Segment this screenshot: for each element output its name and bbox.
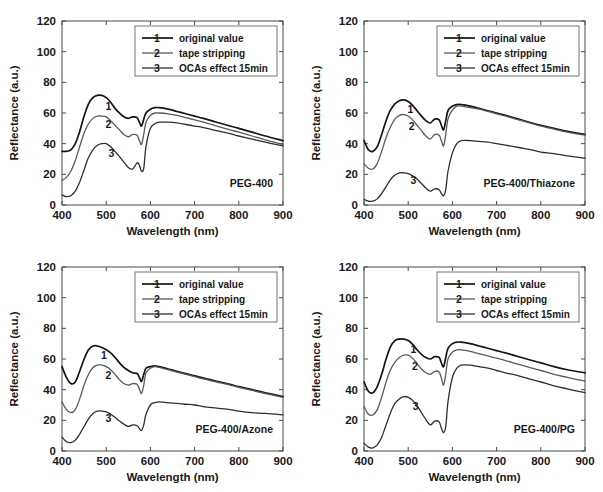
curve-number-2: 2: [409, 120, 415, 132]
legend-label-2: tape stripping: [481, 294, 547, 305]
y-tick-label: 80: [345, 322, 358, 334]
x-axis-title: Wavelength (nm): [126, 471, 218, 483]
legend-label-1: original value: [481, 279, 546, 290]
legend-label-3: OCAs effect 15min: [481, 63, 570, 74]
y-tick-label: 0: [352, 445, 358, 457]
x-axis-title: Wavelength (nm): [126, 225, 218, 237]
curve-number-3: 3: [109, 147, 115, 159]
curve-number-3: 3: [105, 412, 111, 424]
curve-number-2: 2: [412, 360, 418, 372]
y-tick-label: 40: [345, 384, 358, 396]
x-tick-label: 600: [141, 455, 160, 467]
chart-panel-bottom-right: 400500600700800900020406080100120Wavelen…: [302, 246, 603, 492]
legend-label-3: OCAs effect 15min: [481, 309, 570, 320]
y-tick-label: 100: [339, 292, 358, 304]
y-tick-label: 100: [37, 292, 56, 304]
legend-marker-1: 1: [154, 278, 160, 290]
y-tick-label: 60: [43, 107, 56, 119]
chart-panel-bottom-left: 400500600700800900020406080100120Wavelen…: [0, 246, 301, 492]
legend-label-1: original value: [179, 33, 244, 44]
x-tick-label: 500: [399, 209, 418, 221]
y-tick-label: 60: [345, 353, 358, 365]
chart-panel-top-right: 400500600700800900020406080100120Wavelen…: [302, 0, 603, 246]
x-tick-label: 700: [487, 209, 506, 221]
y-tick-label: 40: [43, 138, 56, 150]
y-axis-title: Reflectance (a.u.): [310, 65, 322, 160]
legend-label-2: tape stripping: [179, 48, 245, 59]
curve-number-1: 1: [101, 349, 107, 361]
curve-number-3: 3: [413, 400, 419, 412]
curve-number-1: 1: [407, 103, 413, 115]
panel-title: PEG-400/Thiazone: [483, 177, 575, 189]
y-tick-label: 0: [50, 445, 56, 457]
x-tick-label: 500: [97, 209, 116, 221]
legend-marker-1: 1: [456, 278, 462, 290]
curve-number-1: 1: [411, 343, 417, 355]
y-tick-label: 100: [37, 46, 56, 58]
x-axis-title: Wavelength (nm): [428, 225, 520, 237]
legend-label-1: original value: [179, 279, 244, 290]
x-tick-label: 500: [399, 455, 418, 467]
x-tick-label: 600: [443, 455, 462, 467]
y-tick-label: 40: [43, 384, 56, 396]
y-tick-label: 0: [352, 199, 358, 211]
legend-marker-2: 2: [154, 293, 160, 305]
y-tick-label: 80: [345, 76, 358, 88]
y-tick-label: 20: [43, 168, 56, 180]
x-tick-label: 600: [443, 209, 462, 221]
legend-marker-3: 3: [154, 308, 160, 320]
legend-label-3: OCAs effect 15min: [179, 309, 268, 320]
curve-number-3: 3: [411, 174, 417, 186]
x-tick-label: 700: [185, 209, 204, 221]
y-tick-label: 20: [43, 414, 56, 426]
legend-marker-2: 2: [154, 47, 160, 59]
y-tick-label: 40: [345, 138, 358, 150]
y-tick-label: 100: [339, 46, 358, 58]
y-tick-label: 120: [37, 261, 56, 273]
legend-marker-1: 1: [154, 32, 160, 44]
curve-number-1: 1: [105, 100, 111, 112]
x-tick-label: 600: [141, 209, 160, 221]
x-tick-label: 800: [229, 209, 248, 221]
y-tick-label: 80: [43, 76, 56, 88]
x-tick-label: 800: [229, 455, 248, 467]
chart-panel-top-left: 400500600700800900020406080100120Wavelen…: [0, 0, 301, 246]
panel-title: PEG-400/PG: [514, 423, 575, 435]
y-tick-label: 60: [43, 353, 56, 365]
panel-title: PEG-400: [230, 177, 273, 189]
panel-title: PEG-400/Azone: [195, 423, 273, 435]
x-tick-label: 800: [531, 209, 550, 221]
legend-marker-1: 1: [456, 32, 462, 44]
legend-marker-3: 3: [154, 62, 160, 74]
x-tick-label: 500: [97, 455, 116, 467]
x-tick-label: 800: [531, 455, 550, 467]
y-tick-label: 80: [43, 322, 56, 334]
legend-marker-2: 2: [456, 47, 462, 59]
x-axis-title: Wavelength (nm): [428, 471, 520, 483]
y-tick-label: 120: [37, 15, 56, 27]
x-tick-label: 900: [575, 209, 594, 221]
legend-marker-3: 3: [456, 308, 462, 320]
y-tick-label: 20: [345, 168, 358, 180]
x-tick-label: 700: [487, 455, 506, 467]
legend-marker-3: 3: [456, 62, 462, 74]
legend-label-2: tape stripping: [481, 48, 547, 59]
y-axis-title: Reflectance (a.u.): [8, 311, 20, 406]
curve-number-2: 2: [105, 369, 111, 381]
legend-label-2: tape stripping: [179, 294, 245, 305]
legend-marker-2: 2: [456, 293, 462, 305]
curve-number-2: 2: [105, 118, 111, 130]
x-tick-label: 900: [273, 209, 292, 221]
legend-label-3: OCAs effect 15min: [179, 63, 268, 74]
y-axis-title: Reflectance (a.u.): [8, 65, 20, 160]
figure-reflectance-spectra-panels: 400500600700800900020406080100120Wavelen…: [0, 0, 603, 492]
y-tick-label: 120: [339, 261, 358, 273]
legend-label-1: original value: [481, 33, 546, 44]
y-tick-label: 0: [50, 199, 56, 211]
x-tick-label: 900: [575, 455, 594, 467]
y-tick-label: 20: [345, 414, 358, 426]
y-axis-title: Reflectance (a.u.): [310, 311, 322, 406]
x-tick-label: 700: [185, 455, 204, 467]
y-tick-label: 60: [345, 107, 358, 119]
x-tick-label: 900: [273, 455, 292, 467]
